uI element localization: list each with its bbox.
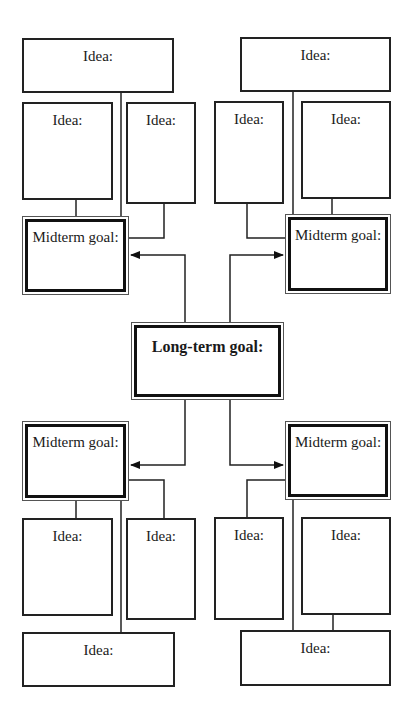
midterm-goal-bottom-left[interactable]: Midterm goal: xyxy=(22,421,129,501)
idea-label: Idea: xyxy=(303,111,389,128)
connector-line xyxy=(129,480,164,518)
idea-label: Idea: xyxy=(303,527,389,544)
midterm-goal-top-right[interactable]: Midterm goal: xyxy=(285,214,391,294)
idea-box-top-left-wide[interactable]: Idea: xyxy=(22,38,174,93)
idea-label: Idea: xyxy=(24,528,111,545)
idea-label: Idea: xyxy=(242,640,389,657)
idea-box-bottom-left-2[interactable]: Idea: xyxy=(126,518,196,620)
arrow-to-midterm-bottom-right xyxy=(230,400,283,465)
idea-box-bottom-right-1[interactable]: Idea: xyxy=(214,517,284,620)
idea-box-bottom-left-1[interactable]: Idea: xyxy=(22,518,113,616)
idea-box-top-right-1[interactable]: Idea: xyxy=(214,101,284,204)
idea-label: Idea: xyxy=(24,48,172,65)
idea-label: Idea: xyxy=(24,112,111,129)
idea-label: Idea: xyxy=(24,642,173,659)
idea-box-top-left-2[interactable]: Idea: xyxy=(126,102,196,204)
idea-box-top-right-2[interactable]: Idea: xyxy=(301,101,391,199)
midterm-goal-label: Midterm goal: xyxy=(291,434,385,451)
midterm-goal-bottom-right[interactable]: Midterm goal: xyxy=(285,421,391,500)
idea-box-bottom-left-wide[interactable]: Idea: xyxy=(22,632,175,687)
midterm-goal-label: Midterm goal: xyxy=(28,434,123,451)
idea-box-top-left-1[interactable]: Idea: xyxy=(22,102,113,200)
long-term-goal-label: Long-term goal: xyxy=(137,338,278,356)
midterm-goal-top-left[interactable]: Midterm goal: xyxy=(22,216,129,295)
idea-label: Idea: xyxy=(128,112,194,129)
arrow-to-midterm-top-right xyxy=(230,255,283,322)
midterm-goal-frame: Midterm goal: xyxy=(288,424,388,497)
connector-line xyxy=(247,204,285,238)
idea-box-bottom-right-wide[interactable]: Idea: xyxy=(240,630,391,686)
idea-box-bottom-right-2[interactable]: Idea: xyxy=(301,517,391,615)
idea-label: Idea: xyxy=(216,111,282,128)
midterm-goal-frame: Midterm goal: xyxy=(25,424,126,498)
idea-box-top-right-wide[interactable]: Idea: xyxy=(240,37,391,92)
connector-line xyxy=(247,480,285,517)
midterm-goal-label: Midterm goal: xyxy=(291,227,385,244)
midterm-goal-frame: Midterm goal: xyxy=(25,219,126,292)
connector-line xyxy=(129,204,164,238)
long-term-goal[interactable]: Long-term goal: xyxy=(131,322,284,400)
idea-label: Idea: xyxy=(242,47,389,64)
long-term-goal-frame: Long-term goal: xyxy=(134,325,281,397)
arrow-to-midterm-bottom-left xyxy=(131,400,185,465)
midterm-goal-label: Midterm goal: xyxy=(28,229,123,246)
arrow-to-midterm-top-left xyxy=(131,255,185,322)
midterm-goal-frame: Midterm goal: xyxy=(288,217,388,291)
idea-label: Idea: xyxy=(128,528,194,545)
idea-label: Idea: xyxy=(216,527,282,544)
